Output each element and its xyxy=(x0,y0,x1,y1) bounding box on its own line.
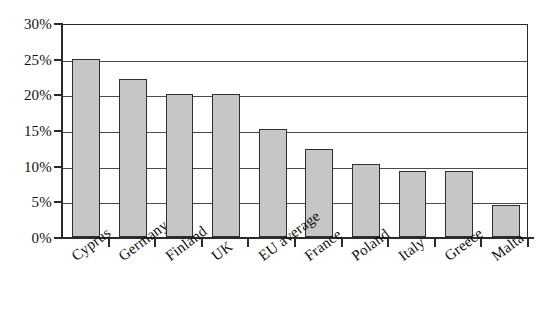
x-tick-mark xyxy=(108,239,110,247)
y-tick-label-0pct: 0% xyxy=(32,231,52,246)
y-tick-label-30pct: 30% xyxy=(24,17,52,32)
x-tick-mark xyxy=(527,239,529,247)
y-tick-mark xyxy=(54,23,63,25)
y-tick-label-5pct: 5% xyxy=(32,195,52,210)
y-tick-mark xyxy=(54,166,63,168)
bar-series xyxy=(63,25,527,237)
y-tick-mark xyxy=(54,201,63,203)
x-tick-mark xyxy=(480,239,482,247)
bar-chart: 0%5%10%15%20%25%30% CyprusGermanyFinland… xyxy=(0,0,547,331)
x-tick-mark xyxy=(387,239,389,247)
y-tick-label-25pct: 25% xyxy=(24,52,52,67)
x-tick-mark xyxy=(201,239,203,247)
y-tick-label-15pct: 15% xyxy=(24,124,52,139)
bar-malta xyxy=(492,205,520,237)
y-axis-label-group: 0%5%10%15%20%25%30% xyxy=(0,0,56,331)
bar-uk xyxy=(212,94,240,237)
bar-italy xyxy=(399,171,427,237)
bar-finland xyxy=(166,94,194,237)
y-tick-mark xyxy=(54,130,63,132)
y-tick-label-10pct: 10% xyxy=(24,159,52,174)
x-tick-mark xyxy=(247,239,249,247)
bar-france xyxy=(305,149,333,237)
y-tick-label-20pct: 20% xyxy=(24,88,52,103)
bar-cyprus xyxy=(72,59,100,237)
bar-greece xyxy=(445,171,473,237)
bar-poland xyxy=(352,164,380,237)
x-tick-mark xyxy=(341,239,343,247)
y-tick-mark xyxy=(54,94,63,96)
bar-eu-average xyxy=(259,129,287,237)
x-tick-mark xyxy=(154,239,156,247)
y-tick-mark xyxy=(54,59,63,61)
x-tick-mark xyxy=(294,239,296,247)
x-tick-mark xyxy=(434,239,436,247)
x-tick-label-italy: Italy xyxy=(396,235,428,264)
y-tick-mark xyxy=(54,237,63,239)
bar-germany xyxy=(119,79,147,237)
x-tick-label-uk: UK xyxy=(209,239,236,264)
plot-area xyxy=(62,24,528,238)
